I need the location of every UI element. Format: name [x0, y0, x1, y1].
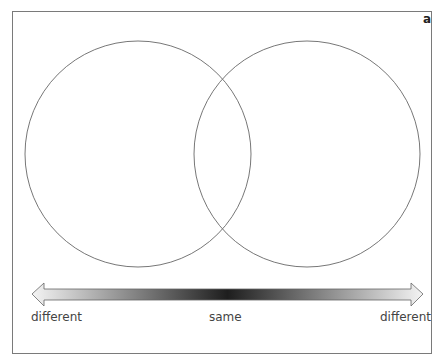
venn-diagram — [0, 0, 445, 362]
right-circle — [194, 41, 420, 267]
label-same: same — [209, 310, 242, 324]
gradient-double-arrow — [32, 283, 423, 306]
label-different-right: different — [380, 310, 431, 324]
label-different-left: different — [31, 310, 82, 324]
left-circle — [25, 41, 251, 267]
